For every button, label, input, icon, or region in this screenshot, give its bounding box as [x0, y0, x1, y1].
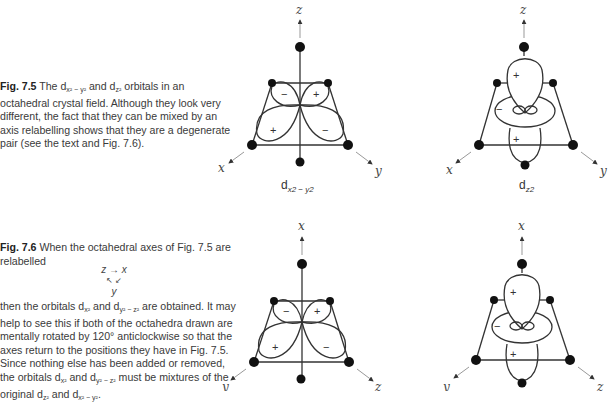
axis-label-left: y	[442, 380, 450, 391]
lobe-sign: +	[270, 124, 276, 136]
lobe-sign: −	[283, 305, 289, 317]
lobe-sign: −	[323, 341, 329, 353]
axis-label-right: y	[599, 164, 607, 178]
axis-label-left: y	[221, 380, 229, 391]
lobe-sign: +	[513, 69, 519, 81]
axis-label-right: z	[374, 380, 382, 391]
lobe-sign: +	[510, 348, 516, 360]
diagram-dx2	[454, 237, 594, 388]
lobe-sign: −	[496, 103, 502, 115]
diagram-dz2	[456, 20, 597, 170]
axis-label-top: z	[519, 3, 527, 17]
axis-label-top: x	[298, 219, 305, 233]
subscript: x² − y²	[78, 394, 98, 401]
axis-label-top: z	[295, 3, 303, 17]
lobe-sign: +	[272, 341, 278, 353]
lobe-sign: +	[314, 305, 320, 317]
orbital-name-dz2: dz2	[519, 178, 535, 194]
diagram-dx2-y2	[229, 20, 372, 167]
axis-label-left: x	[218, 161, 225, 175]
lobe-sign: −	[281, 88, 287, 100]
orbital-name-dx2-y2: dx2 − y2	[281, 178, 314, 194]
lobe-sign: +	[513, 133, 519, 145]
axis-label-top: x	[518, 219, 525, 233]
axis-label-right: z	[596, 380, 604, 391]
lobe-sign: −	[494, 320, 500, 332]
axis-label-left: x	[446, 163, 453, 177]
axis-label-right: y	[374, 164, 382, 178]
lobe-sign: +	[510, 286, 516, 298]
diagram-dy2-z2	[231, 237, 373, 384]
lobe-sign: −	[322, 124, 328, 136]
lobe-sign: +	[313, 88, 319, 100]
